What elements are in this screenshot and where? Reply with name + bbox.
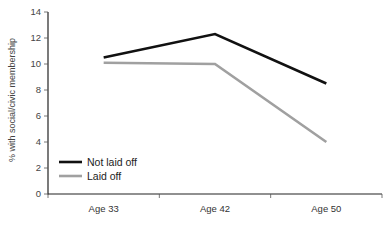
series-lines xyxy=(104,34,327,142)
legend-item: Not laid off xyxy=(59,156,137,168)
y-axis-title: % with social/civic membership xyxy=(7,38,17,162)
y-tick-label: 0 xyxy=(36,188,41,199)
x-axis: Age 33Age 42Age 50 xyxy=(48,194,382,214)
y-tick-label: 10 xyxy=(30,58,41,69)
y-tick-label: 8 xyxy=(36,84,41,95)
y-axis: 02468101214 xyxy=(30,6,48,199)
y-tick-label: 2 xyxy=(36,162,41,173)
legend-label: Not laid off xyxy=(87,156,137,168)
series-line-not-laid-off xyxy=(104,34,327,83)
x-category-label: Age 33 xyxy=(89,203,119,214)
y-tick-label: 4 xyxy=(36,136,41,147)
x-category-label: Age 50 xyxy=(311,203,341,214)
y-tick-label: 6 xyxy=(36,110,41,121)
legend-item: Laid off xyxy=(59,170,121,182)
x-category-label: Age 42 xyxy=(200,203,230,214)
legend: Not laid offLaid off xyxy=(59,156,137,182)
line-chart: % with social/civic membership 024681012… xyxy=(0,0,392,227)
y-tick-label: 12 xyxy=(30,32,41,43)
y-tick-label: 14 xyxy=(30,6,41,17)
series-line-laid-off xyxy=(104,63,327,142)
legend-label: Laid off xyxy=(87,170,121,182)
y-axis-label: % with social/civic membership xyxy=(7,38,17,162)
